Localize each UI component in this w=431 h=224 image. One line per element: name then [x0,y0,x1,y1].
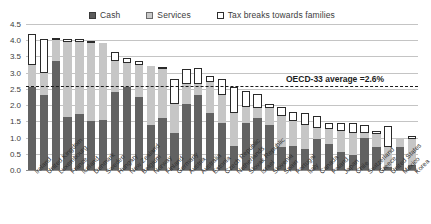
bar-group[interactable] [99,24,107,170]
chart-legend: Cash Services Tax breaks towards familie… [0,8,424,22]
y-axis-tick: 2.5 [10,84,21,93]
legend-item-tax-breaks: Tax breaks towards families [217,10,335,20]
bar-segment-tax-breaks [123,58,131,63]
bar-group[interactable] [396,24,404,170]
y-axis-tick: 0.5 [10,149,21,158]
bar-segment-services [313,128,321,139]
bar-segment-services [242,107,250,123]
bar-segment-services [253,108,261,118]
bar-segment-tax-breaks [337,123,345,131]
x-axis-tick-labels: IrelandUnited KingdomLuxembourgFranceIce… [26,170,418,224]
bar-segment-services [158,69,166,118]
y-axis-tick: 3.0 [10,68,21,77]
oecd-average-label: OECD-33 average =2.6% [284,74,386,84]
bar-segment-services [289,121,297,145]
bar-segment-services [182,84,190,103]
bar-segment-tax-breaks [87,41,95,44]
bar-segment-tax-breaks [52,38,60,41]
bar-segment-tax-breaks [40,39,48,73]
y-axis-tick: 2.0 [10,101,21,110]
bar-segment-tax-breaks [182,69,190,84]
bar-segment-tax-breaks [158,67,166,70]
y-axis-tick: 3.5 [10,52,21,61]
bar-segment-tax-breaks [28,34,36,65]
y-axis-tick: 4.5 [10,20,21,29]
bar-segment-services [147,66,155,124]
bar-group[interactable] [372,24,380,170]
bar-group[interactable] [52,24,60,170]
bar-segment-services [396,139,404,147]
bar-segment-services [87,43,95,120]
y-axis-tick: 1.0 [10,133,21,142]
bar-segment-tax-breaks [313,116,321,127]
bar-group[interactable] [182,24,190,170]
legend-item-services: Services [146,10,190,20]
bar-segment-services [28,65,36,88]
y-axis-tick: 4.0 [10,36,21,45]
legend-label-tax-breaks: Tax breaks towards families [228,10,335,20]
bar-group[interactable] [301,24,309,170]
bar-group[interactable] [289,24,297,170]
y-axis-tick-labels: 0.00.51.01.52.02.53.03.54.04.5 [0,24,24,170]
bar-group[interactable] [325,24,333,170]
bar-segment-tax-breaks [384,126,392,147]
bar-segment-services [111,61,119,92]
bar-segment-services [349,133,357,156]
bar-group[interactable] [230,24,238,170]
bar-segment-tax-breaks [63,39,71,42]
bar-segment-tax-breaks [194,68,202,84]
bar-segment-tax-breaks [301,113,309,124]
legend-swatch-services-icon [146,12,153,19]
bar-segment-tax-breaks [242,91,250,107]
bar-segment-tax-breaks [75,39,83,42]
bar-segment-services [301,125,309,149]
bar-segment-services [230,113,238,145]
bar-group[interactable] [218,24,226,170]
bar-segment-services [372,134,380,147]
bar-group[interactable] [194,24,202,170]
y-axis-tick: 1.5 [10,117,21,126]
bar-group[interactable] [349,24,357,170]
bar-segment-cash [28,87,36,170]
bar-segment-services [52,40,60,61]
bar-group[interactable] [123,24,131,170]
bar-segment-tax-breaks [253,94,261,109]
bar-group[interactable] [40,24,48,170]
bar-segment-tax-breaks [349,123,357,133]
bar-segment-services [360,133,368,138]
bar-segment-services [337,131,345,152]
legend-label-services: Services [157,10,190,20]
bar-segment-services [325,129,333,144]
bar-segment-tax-breaks [170,79,178,103]
bar-segment-tax-breaks [265,104,273,109]
bar-group[interactable] [170,24,178,170]
bar-segment-tax-breaks [111,52,119,62]
legend-item-cash: Cash [89,10,120,20]
bar-segment-services [99,43,107,119]
bar-segment-tax-breaks [277,107,285,117]
oecd-average-line [26,86,418,87]
bar-segment-services [206,82,214,113]
bar-group[interactable] [135,24,143,170]
bar-group[interactable] [28,24,36,170]
bar-segment-services [218,95,226,123]
bar-segment-services [75,42,83,114]
bar-segment-services [63,42,71,118]
bar-group[interactable] [111,24,119,170]
bar-segment-tax-breaks [218,79,226,95]
bar-group[interactable] [313,24,321,170]
bar-group[interactable] [337,24,345,170]
bar-segment-tax-breaks [230,87,238,113]
bar-segment-tax-breaks [372,131,380,134]
bar-segment-services [123,63,131,87]
bar-segment-tax-breaks [135,61,143,64]
bar-segment-services [265,108,273,124]
bar-segment-tax-breaks [408,136,416,139]
bar-group[interactable] [206,24,214,170]
y-axis-tick: 0.0 [10,166,21,175]
bar-segment-cash [52,61,60,170]
bar-segment-services [40,73,48,96]
bar-group[interactable] [360,24,368,170]
bar-segment-services [135,65,143,97]
